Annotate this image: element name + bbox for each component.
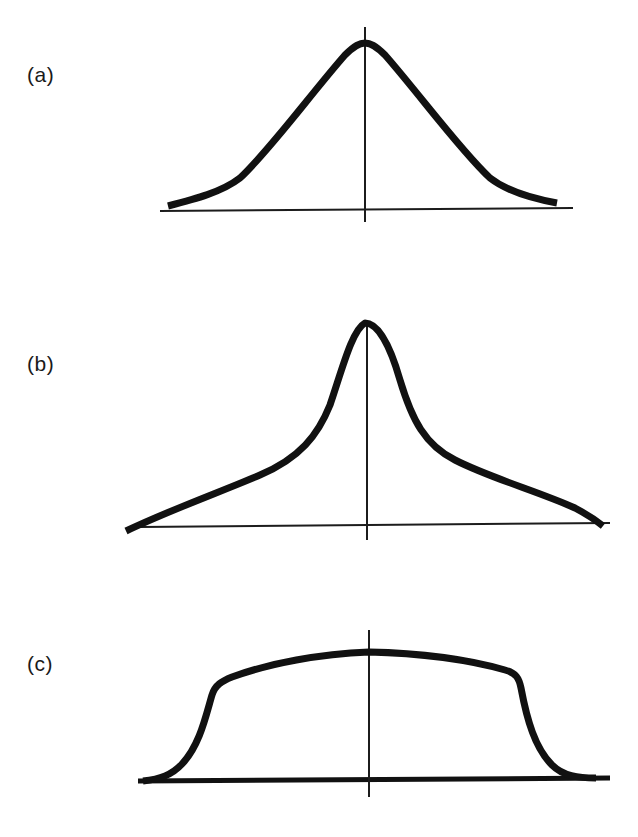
panel-c [138, 630, 610, 797]
panel-a-baseline [160, 208, 573, 211]
panel-c-baseline [138, 778, 610, 781]
panel-b-baseline [140, 523, 610, 527]
panel-a [160, 27, 573, 222]
panel-b [126, 322, 610, 540]
panel-a-bell-curve [168, 43, 557, 206]
panel-b-peaked-curve [126, 323, 603, 531]
distribution-figure [0, 0, 638, 837]
